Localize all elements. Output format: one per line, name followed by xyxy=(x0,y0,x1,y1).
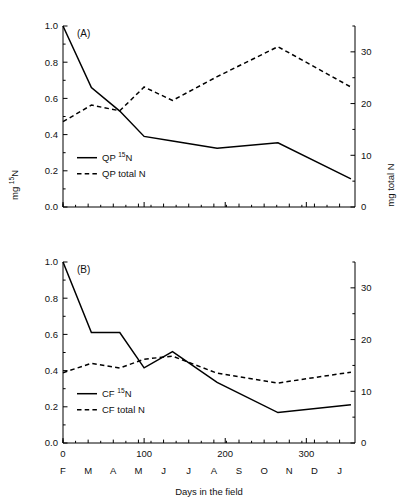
y-tick-label-right-b-2: 20 xyxy=(361,334,372,345)
month-label-8: O xyxy=(260,465,267,476)
x-tick-label-2: 200 xyxy=(217,448,233,459)
y-tick-label-right-a-0: 0 xyxy=(361,201,366,212)
legend-label-a-0: QP 15N xyxy=(102,151,133,163)
y-tick-label-left-b-3: 0.6 xyxy=(45,329,58,340)
month-label-11: J xyxy=(337,465,342,476)
x-tick-label-3: 300 xyxy=(298,448,314,459)
month-label-0: F xyxy=(60,465,66,476)
y-tick-label-left-b-2: 0.4 xyxy=(45,365,58,376)
x-axis-title: Days in the field xyxy=(175,486,243,497)
month-label-4: J xyxy=(161,465,166,476)
y-tick-label-right-a-2: 20 xyxy=(361,98,372,109)
month-label-10: D xyxy=(311,465,318,476)
month-label-2: A xyxy=(110,465,117,476)
y-tick-label-left-a-4: 0.8 xyxy=(45,57,58,68)
month-label-7: S xyxy=(236,465,242,476)
y-tick-label-left-a-0: 0.0 xyxy=(45,201,58,212)
chart-canvas: 0.00.20.40.60.81.00102030(A)QP 15NQP tot… xyxy=(0,0,404,498)
y-tick-label-left-b-5: 1.0 xyxy=(45,256,58,267)
y-tick-label-right-a-1: 10 xyxy=(361,150,372,161)
panel-a: 0.00.20.40.60.81.00102030(A)QP 15NQP tot… xyxy=(45,20,372,212)
y-tick-label-right-b-0: 0 xyxy=(361,437,366,448)
month-label-5: J xyxy=(186,465,191,476)
panel-tag-b: (B) xyxy=(77,264,90,275)
y-tick-label-left-b-0: 0.0 xyxy=(45,437,58,448)
y-tick-label-left-a-2: 0.4 xyxy=(45,129,58,140)
y-axis-title-right: mg total N xyxy=(385,163,396,206)
month-label-9: N xyxy=(286,465,293,476)
series-qp-total-n xyxy=(63,47,351,122)
month-label-6: A xyxy=(211,465,218,476)
y-tick-label-right-a-3: 30 xyxy=(361,46,372,57)
y-tick-label-right-b-3: 30 xyxy=(361,282,372,293)
y-tick-label-left-a-3: 0.6 xyxy=(45,93,58,104)
x-tick-label-0: 0 xyxy=(60,448,65,459)
legend-label-a-1: QP total N xyxy=(102,168,146,179)
figure-container: 0.00.20.40.60.81.00102030(A)QP 15NQP tot… xyxy=(0,0,404,498)
month-label-3: M xyxy=(134,465,142,476)
y-tick-label-right-b-1: 10 xyxy=(361,386,372,397)
panel-b: 0.00.20.40.60.81.00102030(B)CF 15NCF tot… xyxy=(45,256,372,497)
y-axis-title-left: mg 15N xyxy=(8,170,20,200)
y-tick-label-left-a-5: 1.0 xyxy=(45,20,58,31)
x-tick-label-1: 100 xyxy=(136,448,152,459)
legend-label-b-1: CF total N xyxy=(102,404,145,415)
y-tick-label-left-a-1: 0.2 xyxy=(45,165,58,176)
y-tick-label-left-b-1: 0.2 xyxy=(45,401,58,412)
panel-tag-a: (A) xyxy=(77,28,90,39)
y-tick-label-left-b-4: 0.8 xyxy=(45,293,58,304)
month-label-1: M xyxy=(84,465,92,476)
legend-label-b-0: CF 15N xyxy=(102,387,132,399)
series-cf-total-n xyxy=(63,356,351,383)
